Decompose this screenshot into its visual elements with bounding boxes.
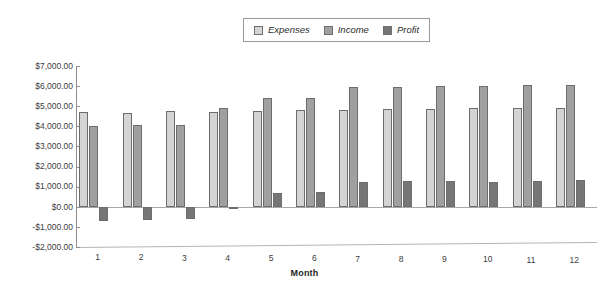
x-tick-label-12: 12 xyxy=(553,256,596,265)
legend-swatch-expenses xyxy=(254,26,263,35)
plot-area xyxy=(76,66,596,247)
legend-item-income: Income xyxy=(324,25,369,35)
bar-profit-month-4 xyxy=(229,207,238,209)
x-tick-label-2: 2 xyxy=(119,253,162,262)
bar-profit-month-6 xyxy=(316,192,325,207)
bar-income-month-6 xyxy=(306,98,315,207)
x-axis-title: Month xyxy=(0,268,609,278)
x-tick-label-5: 5 xyxy=(249,254,292,263)
bar-expenses-month-10 xyxy=(469,108,478,206)
y-tick-label: $4,000.00 xyxy=(35,122,76,131)
bar-profit-month-11 xyxy=(533,181,542,207)
y-tick-label: $6,000.00 xyxy=(35,81,76,90)
x-tick-label-8: 8 xyxy=(379,255,422,264)
bar-profit-month-1 xyxy=(99,207,108,221)
chart-legend: Expenses Income Profit xyxy=(243,18,430,42)
bar-profit-month-9 xyxy=(446,181,455,207)
legend-label-income: Income xyxy=(338,25,369,35)
bar-expenses-month-7 xyxy=(339,110,348,207)
bar-expenses-month-12 xyxy=(556,108,565,207)
legend-swatch-profit xyxy=(383,26,392,35)
bar-income-month-1 xyxy=(89,126,98,206)
x-tick-label-11: 11 xyxy=(509,256,552,265)
bar-income-month-5 xyxy=(263,98,272,207)
bar-profit-month-5 xyxy=(273,193,282,207)
bar-expenses-month-1 xyxy=(79,112,88,207)
bar-profit-month-10 xyxy=(489,182,498,207)
y-tick-label: -$2,000.00 xyxy=(32,242,76,251)
y-tick-label: -$1,000.00 xyxy=(32,222,76,231)
bar-expenses-month-11 xyxy=(513,108,522,207)
bar-expenses-month-8 xyxy=(383,109,392,206)
bar-expenses-month-4 xyxy=(209,112,218,207)
y-tick-label: $2,000.00 xyxy=(35,162,76,171)
legend-item-expenses: Expenses xyxy=(254,25,310,35)
legend-swatch-income xyxy=(324,26,333,35)
legend-label-expenses: Expenses xyxy=(268,25,310,35)
bar-profit-month-12 xyxy=(576,180,585,207)
x-tick-label-9: 9 xyxy=(423,255,466,264)
x-tick-label-1: 1 xyxy=(76,253,119,262)
y-tick-label: $3,000.00 xyxy=(35,142,76,151)
bar-income-month-4 xyxy=(219,108,228,206)
bar-chart: Expenses Income Profit $7,000.00$6,000.0… xyxy=(0,0,609,298)
bar-profit-month-8 xyxy=(403,181,412,206)
bar-expenses-month-5 xyxy=(253,111,262,207)
y-tick-mark xyxy=(76,247,80,248)
bar-income-month-9 xyxy=(436,86,445,207)
x-tick-label-7: 7 xyxy=(336,255,379,264)
legend-item-profit: Profit xyxy=(383,25,419,35)
x-tick-label-3: 3 xyxy=(163,254,206,263)
bar-expenses-month-3 xyxy=(166,111,175,207)
bar-profit-month-2 xyxy=(143,207,152,221)
bar-profit-month-7 xyxy=(359,182,368,207)
bar-expenses-month-6 xyxy=(296,110,305,207)
bar-income-month-8 xyxy=(393,87,402,207)
x-tick-label-4: 4 xyxy=(206,254,249,263)
bar-expenses-month-2 xyxy=(123,113,132,207)
x-tick-label-6: 6 xyxy=(293,254,336,263)
bar-income-month-3 xyxy=(176,125,185,207)
x-tick-label-10: 10 xyxy=(466,255,509,264)
bar-income-month-12 xyxy=(566,85,575,207)
y-tick-label: $0.00 xyxy=(52,202,76,211)
bar-income-month-2 xyxy=(133,125,142,206)
bar-expenses-month-9 xyxy=(426,109,435,207)
bar-income-month-7 xyxy=(349,87,358,206)
y-tick-label: $1,000.00 xyxy=(35,182,76,191)
bar-profit-month-3 xyxy=(186,207,195,219)
y-tick-label: $5,000.00 xyxy=(35,101,76,110)
y-tick-label: $7,000.00 xyxy=(35,61,76,70)
bar-income-month-10 xyxy=(479,86,488,207)
bar-income-month-11 xyxy=(523,85,532,207)
legend-label-profit: Profit xyxy=(397,25,419,35)
